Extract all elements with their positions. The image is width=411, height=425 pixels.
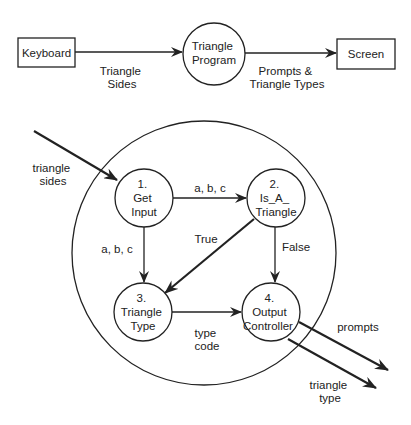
flow-p2-p3-true [165,219,254,293]
label-prompts: prompts [337,321,379,333]
label-prompts-types: Prompts & Triangle Types [250,65,325,90]
entity-keyboard: Keyboard [18,38,75,67]
process-triangle-program: Triangle Program [183,23,245,85]
label-flow-p1-p2: a, b, c [194,182,226,194]
process-get-input: 1. Get Input [115,169,173,227]
context-diagram: Keyboard Triangle Program Screen Triangl… [18,23,395,90]
label-flow-true: True [194,233,217,245]
entity-screen: Screen [337,39,395,69]
process-output-controller: 4. Output Controller [242,283,300,341]
label-triangle-sides-in: triangle sides [33,162,74,187]
label-triangle-sides: Triangle Sides [100,65,144,90]
label-flow-false: False [282,241,310,253]
process-is-a-triangle: 2. Is_A_ Triangle [247,169,305,227]
label-type-code: type code [195,327,220,352]
entity-keyboard-label: Keyboard [22,47,71,59]
dataflow-diagram: Keyboard Triangle Program Screen Triangl… [0,0,411,425]
entity-screen-label: Screen [348,48,384,60]
label-flow-p1-p3: a, b, c [101,243,133,255]
process-triangle-type: 3. Triangle Type [114,283,172,341]
label-triangle-type-out: triangle type [310,379,351,404]
level1-diagram: 1. Get Input 2. Is_A_ Triangle 3. Triang… [33,121,388,404]
